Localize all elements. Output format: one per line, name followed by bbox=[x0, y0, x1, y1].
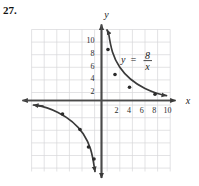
figure-container: 27. bbox=[0, 0, 199, 186]
equation-equals: = bbox=[130, 54, 137, 65]
x-tick-label: 4 bbox=[127, 106, 131, 115]
graph-svg: 10 8 6 4 2 2 4 6 8 10 y x y = 8 x bbox=[0, 0, 199, 186]
y-tick-label: 4 bbox=[91, 74, 95, 83]
curve-branch-negative bbox=[37, 105, 95, 168]
y-tick-label: 6 bbox=[91, 62, 95, 71]
equation-lhs: y bbox=[120, 54, 126, 65]
x-tick-label: 6 bbox=[140, 106, 144, 115]
x-tick-label: 10 bbox=[164, 106, 172, 115]
equation-denominator: x bbox=[144, 61, 150, 72]
curve-branch-negative-left-arrow bbox=[34, 105, 44, 106]
y-axis-label: y bbox=[103, 9, 109, 20]
curve-branch-negative-bottom-arrow bbox=[94, 168, 95, 172]
y-tick-label: 8 bbox=[91, 49, 95, 58]
x-axis-label: x bbox=[185, 95, 191, 106]
equation-numerator: 8 bbox=[145, 50, 150, 61]
y-tick-label: 10 bbox=[87, 36, 95, 45]
y-tick-label: 2 bbox=[91, 87, 95, 96]
x-tick-label: 2 bbox=[115, 106, 119, 115]
x-tick-labels: 2 4 6 8 10 bbox=[115, 106, 172, 115]
equation-annotation: y = 8 x bbox=[120, 50, 152, 72]
x-tick-label: 8 bbox=[152, 106, 156, 115]
y-tick-labels: 10 8 6 4 2 bbox=[87, 36, 95, 95]
curve-point-markers bbox=[61, 48, 157, 161]
